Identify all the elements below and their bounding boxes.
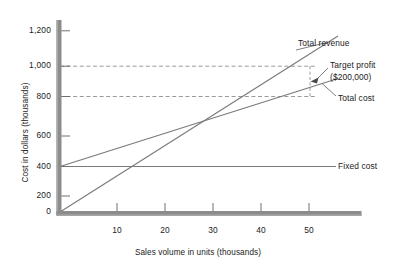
annotation-target-profit-line2: ($200,000) xyxy=(330,72,376,84)
x-axis-bar-shade xyxy=(57,214,362,216)
series-line-total-cost xyxy=(60,79,338,167)
x-tick-label-30: 30 xyxy=(193,225,233,235)
annotation-total-cost: Total cost xyxy=(338,93,374,105)
target-profit-arrowhead xyxy=(311,78,319,84)
annotation-fixed-cost: Fixed cost xyxy=(338,161,377,173)
x-tick-label-50: 50 xyxy=(289,225,329,235)
y-axis-title: Cost in dollars (thousands) xyxy=(21,58,30,208)
leader-line-total-cost xyxy=(322,84,336,97)
x-tick-label-40: 40 xyxy=(241,225,281,235)
series-line-total-revenue xyxy=(60,36,338,212)
annotation-target-profit-line1: Target profit xyxy=(330,60,376,72)
x-axis-ticks xyxy=(117,203,309,211)
y-tick-label-0: 0 xyxy=(7,207,51,216)
y-axis-bar-shade xyxy=(57,20,59,215)
annotation-total-revenue: Total revenue xyxy=(298,38,350,50)
y-tick-label-1200: 1,200 xyxy=(7,26,51,35)
x-tick-label-20: 20 xyxy=(145,225,185,235)
annotation-target-profit: Target profit ($200,000) xyxy=(330,60,376,83)
x-axis-title: Sales volume in units (thousands) xyxy=(58,248,338,257)
y-axis-ticks xyxy=(62,31,71,196)
cvp-chart: 1,200 1,000 800 600 400 200 0 10 20 30 4… xyxy=(0,0,401,273)
x-tick-label-10: 10 xyxy=(97,225,137,235)
